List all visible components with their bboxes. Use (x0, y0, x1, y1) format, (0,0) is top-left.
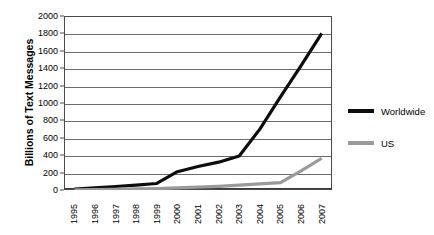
data-series-layer (64, 16, 332, 190)
y-tick-label: 1200 (38, 81, 58, 91)
y-tick-label: 1800 (38, 28, 58, 38)
y-tick-label: 800 (43, 115, 58, 125)
legend-label: US (381, 138, 394, 149)
x-tick-label: 1999 (151, 196, 163, 232)
series-line-worldwide (74, 33, 321, 189)
x-tick-label: 1997 (110, 196, 122, 232)
chart-legend: WorldwideUS (348, 104, 432, 168)
line-chart: Billions of Text Messages 02004006008001… (0, 0, 434, 235)
y-tick-label: 200 (43, 168, 58, 178)
legend-item: Worldwide (348, 104, 432, 118)
y-tick-label: 1400 (38, 63, 58, 73)
legend-item: US (348, 136, 432, 150)
series-line-us (74, 158, 321, 190)
x-tick-label: 2002 (213, 196, 225, 232)
x-tick-label: 2006 (295, 196, 307, 232)
y-tick-label: 400 (43, 150, 58, 160)
x-tick-label: 2005 (274, 196, 286, 232)
x-tick-label: 2007 (316, 196, 328, 232)
y-tick-label: 600 (43, 133, 58, 143)
x-tick-label: 1998 (130, 196, 142, 232)
x-tick-label: 2004 (254, 196, 266, 232)
x-tick-label: 2003 (233, 196, 245, 232)
legend-swatch (348, 141, 374, 145)
x-tick-label: 2001 (192, 196, 204, 232)
y-tick-label: 2000 (38, 11, 58, 21)
x-tick-label: 1995 (68, 196, 80, 232)
y-tick-label: 1600 (38, 46, 58, 56)
legend-label: Worldwide (381, 106, 425, 117)
x-tick-label: 2000 (171, 196, 183, 232)
x-axis-ticks: 1995199619971998199920002001200220032004… (0, 190, 434, 235)
x-tick-label: 1996 (89, 196, 101, 232)
y-tick-label: 1000 (38, 98, 58, 108)
legend-swatch (348, 109, 374, 113)
